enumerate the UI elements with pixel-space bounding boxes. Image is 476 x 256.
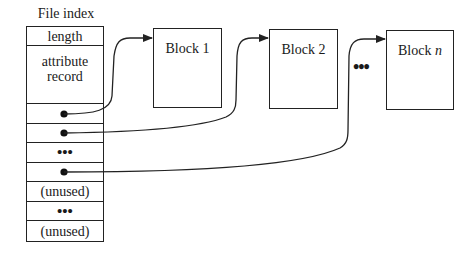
attribute-label: attribute xyxy=(42,54,89,69)
block-n-label-prefix: Block xyxy=(398,43,435,58)
between-blocks-ellipsis-icon: ••• xyxy=(353,57,369,78)
unused-label: (unused) xyxy=(41,184,90,199)
index-row-length: length xyxy=(27,27,103,46)
file-index-table: length attribute record ••• (unused) •••… xyxy=(26,26,104,242)
ellipsis-icon: ••• xyxy=(57,204,73,219)
index-row-attribute-record: attribute record xyxy=(27,46,103,104)
file-index-title: File index xyxy=(26,6,106,22)
record-label: record xyxy=(47,69,83,84)
index-row-pointer-1 xyxy=(27,104,103,124)
block-1: Block 1 xyxy=(153,28,222,108)
ellipsis-icon: ••• xyxy=(57,145,73,160)
unused-label: (unused) xyxy=(41,224,90,239)
index-row-pointer-n xyxy=(27,163,103,182)
index-row-pointer-2 xyxy=(27,124,103,143)
block-2-label: Block 2 xyxy=(282,42,326,57)
index-row-ellipsis-1: ••• xyxy=(27,143,103,163)
block-n-variable: n xyxy=(435,43,442,58)
block-1-label: Block 1 xyxy=(166,41,210,56)
index-row-unused-1: (unused) xyxy=(27,182,103,202)
length-label: length xyxy=(48,29,83,44)
index-row-ellipsis-2: ••• xyxy=(27,202,103,221)
index-row-unused-2: (unused) xyxy=(27,221,103,241)
block-2: Block 2 xyxy=(269,29,338,109)
block-n: Block n xyxy=(386,30,454,110)
